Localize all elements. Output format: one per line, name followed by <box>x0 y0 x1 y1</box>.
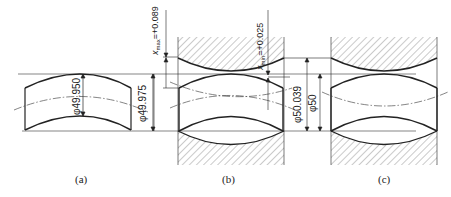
hole-wall-top-c <box>331 37 437 71</box>
dim-label-50: φ50 <box>307 94 318 112</box>
dim-label-49950: φ49.950 <box>71 77 82 115</box>
shaft-b <box>179 74 283 131</box>
caption-c: (c) <box>378 173 391 186</box>
dim-label-49975: φ49.975 <box>137 84 148 122</box>
hole-wall-bottom-b <box>178 131 284 165</box>
shaft-c <box>331 74 437 131</box>
hole-wall-bottom-c <box>331 131 437 165</box>
panel-a: φ49.950 φ49.975 (a) <box>14 74 155 186</box>
caption-a: (a) <box>75 173 88 186</box>
centerline-b2 <box>170 95 295 110</box>
dim-label-xmax: xmax=+0.089 <box>150 6 161 56</box>
dim-50-arrow <box>318 74 322 131</box>
dim-49975-arrow <box>151 74 155 131</box>
panel-b: xmax=+0.089 xmin=+0.025 (b) <box>150 6 295 186</box>
dim-label-50039: φ50.039 <box>292 85 303 123</box>
panel-c: φ50.039 φ50 (c) <box>284 37 448 186</box>
tolerance-fit-diagram: φ49.950 φ49.975 (a) <box>0 0 451 197</box>
centerline-c <box>322 92 448 106</box>
caption-b: (b) <box>222 173 235 186</box>
